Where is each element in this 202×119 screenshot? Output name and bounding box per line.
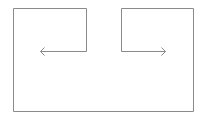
right-notch-wall bbox=[122, 9, 166, 52]
left-outline bbox=[14, 9, 194, 112]
notched-shape-diagram bbox=[0, 0, 202, 119]
left-notch-wall bbox=[41, 9, 87, 52]
